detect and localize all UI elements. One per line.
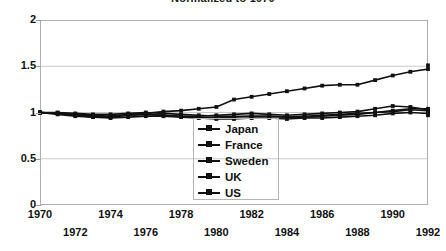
legend-marker-icon (198, 172, 220, 182)
x-tick-label: 1986 (310, 208, 334, 220)
legend-marker-icon (198, 188, 220, 198)
x-tick-label: 1980 (204, 226, 228, 238)
data-point-marker (373, 78, 377, 82)
data-point-marker (144, 111, 148, 115)
legend-marker-icon (198, 140, 220, 150)
legend-item-label: US (225, 187, 241, 199)
y-tick-label: 0.5 (2, 153, 36, 164)
legend-item-sweden[interactable]: Sweden (198, 153, 268, 169)
data-point-marker (56, 111, 60, 115)
legend-item-label: UK (225, 171, 242, 183)
legend-item-uk[interactable]: UK (198, 169, 242, 185)
x-tick-label: 1982 (239, 208, 263, 220)
data-point-marker (356, 83, 360, 87)
legend-item-label: France (225, 139, 263, 151)
y-tick-mark (36, 113, 41, 114)
data-point-marker (373, 111, 377, 115)
x-tick-label: 1974 (98, 208, 122, 220)
x-axis: 1970197419781982198619901972197619801984… (40, 207, 428, 249)
data-point-marker (391, 110, 395, 114)
x-tick-label: 1972 (63, 226, 87, 238)
data-point-marker (303, 87, 307, 91)
x-tick-label: 1988 (345, 226, 369, 238)
data-point-marker (197, 107, 201, 111)
data-point-marker (179, 112, 183, 116)
data-point-marker (426, 63, 430, 67)
data-point-marker (232, 98, 236, 102)
legend-item-us[interactable]: US (198, 185, 241, 201)
data-point-marker (426, 111, 430, 115)
data-point-marker (179, 109, 183, 113)
x-tick-label: 1976 (134, 226, 158, 238)
data-point-marker (391, 104, 395, 108)
y-tick-mark (36, 66, 41, 67)
data-point-marker (338, 83, 342, 87)
data-point-marker (408, 70, 412, 74)
data-point-marker (303, 114, 307, 118)
y-tick-label: 1.5 (2, 60, 36, 71)
data-point-marker (109, 116, 113, 120)
chart-title: Normalized to 1970 (0, 0, 446, 5)
x-tick-label: 1970 (28, 208, 52, 220)
data-point-marker (426, 67, 430, 71)
y-axis: 00.511.52 (0, 20, 36, 205)
series-line (40, 65, 428, 116)
legend-item-label: Sweden (225, 155, 268, 167)
data-point-marker (250, 95, 254, 99)
data-point-marker (126, 115, 130, 119)
line-chart: Normalized to 1970 00.511.52 19701974197… (0, 0, 446, 251)
data-point-marker (267, 92, 271, 96)
data-point-marker (214, 105, 218, 109)
data-point-marker (73, 112, 77, 116)
data-point-marker (391, 74, 395, 78)
legend-item-label: Japan (225, 123, 258, 135)
data-point-marker (126, 112, 130, 116)
data-point-marker (285, 89, 289, 93)
x-tick-label: 1984 (275, 226, 299, 238)
data-point-marker (356, 112, 360, 116)
data-point-marker (91, 112, 95, 116)
y-tick-mark (36, 205, 41, 206)
data-point-marker (408, 108, 412, 112)
x-tick-label: 1992 (416, 226, 440, 238)
data-point-marker (197, 113, 201, 117)
x-tick-label: 1978 (169, 208, 193, 220)
data-point-marker (320, 84, 324, 88)
y-tick-mark (36, 20, 41, 21)
data-point-marker (320, 113, 324, 117)
legend-marker-icon (198, 156, 220, 166)
legend: JapanFranceSwedenUKUS (193, 118, 279, 200)
y-tick-label: 1 (2, 107, 36, 118)
data-point-marker (144, 114, 148, 118)
legend-marker-icon (198, 124, 220, 134)
legend-item-france[interactable]: France (198, 137, 263, 153)
y-tick-label: 2 (2, 14, 36, 25)
data-point-marker (109, 112, 113, 116)
data-point-marker (373, 107, 377, 111)
data-point-marker (162, 112, 166, 116)
data-point-marker (338, 112, 342, 116)
data-point-marker (285, 115, 289, 119)
legend-item-japan[interactable]: Japan (198, 121, 258, 137)
y-tick-mark (36, 159, 41, 160)
x-tick-label: 1990 (380, 208, 404, 220)
